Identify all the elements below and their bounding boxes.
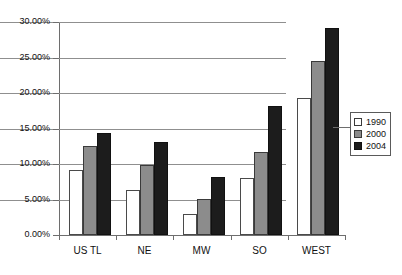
bar-us-tl-2000 (83, 146, 97, 235)
bar-chart: 0.00%5.00%10.00%15.00%20.00%25.00%30.00%… (0, 0, 402, 275)
legend-item-2000: 2000 (354, 128, 386, 140)
swatch-black-icon (354, 142, 362, 150)
bar-so-1990 (240, 178, 254, 235)
bar-west-2000 (311, 61, 325, 235)
bar-west-1990 (297, 98, 311, 235)
y-axis-tick-label: 15.00% (19, 124, 50, 133)
x-axis-tick-label-west: WEST (288, 245, 345, 256)
y-axis-tick-label: 10.00% (19, 159, 50, 168)
x-axis-tick-label-so: SO (231, 245, 288, 256)
bar-mw-2000 (197, 199, 211, 235)
x-axis-tick-label-us-tl: US TL (59, 245, 116, 256)
legend-item-2004: 2004 (354, 140, 386, 152)
x-axis-tick (345, 235, 346, 240)
legend-item-label: 2004 (366, 141, 386, 151)
y-axis-tick-label: 5.00% (24, 195, 50, 204)
bar-ne-2000 (140, 165, 154, 235)
legend-item-1990: 1990 (354, 116, 386, 128)
bar-us-tl-1990 (69, 170, 83, 235)
legend-item-label: 2000 (366, 129, 386, 139)
x-axis-tick (173, 235, 174, 240)
swatch-gray-icon (354, 130, 362, 138)
y-axis-tick-label: 20.00% (19, 88, 50, 97)
x-axis-tick (59, 235, 60, 240)
chart-legend: 199020002004 (350, 112, 391, 156)
swatch-white-icon (354, 118, 362, 126)
x-axis-tick (288, 235, 289, 240)
x-axis-line (59, 235, 345, 236)
legend-item-label: 1990 (366, 117, 386, 127)
legend-leader-line (333, 127, 350, 128)
y-axis-tick-label: 30.00% (19, 17, 50, 26)
bar-west-2004 (325, 28, 339, 235)
x-axis-tick (116, 235, 117, 240)
x-axis-tick-label-mw: MW (173, 245, 230, 256)
bar-mw-2004 (211, 177, 225, 235)
bar-mw-1990 (183, 214, 197, 235)
y-axis-tick-label: 25.00% (19, 53, 50, 62)
x-axis-tick (231, 235, 232, 240)
x-axis-tick-label-ne: NE (116, 245, 173, 256)
plot-area (59, 22, 345, 235)
bar-ne-2004 (154, 142, 168, 235)
bar-us-tl-2004 (97, 133, 111, 235)
bar-so-2004 (268, 106, 282, 235)
y-axis-tick-label: 0.00% (24, 230, 50, 239)
bar-so-2000 (254, 152, 268, 235)
bar-ne-1990 (126, 190, 140, 235)
